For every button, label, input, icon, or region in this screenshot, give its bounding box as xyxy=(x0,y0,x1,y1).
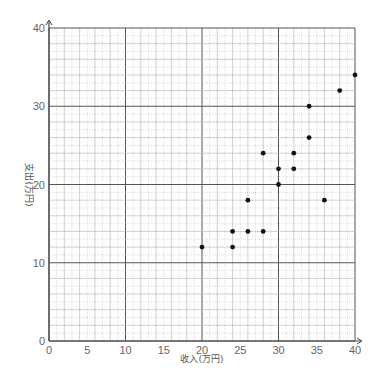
x-tick-label: 0 xyxy=(46,344,52,356)
data-point xyxy=(307,104,312,109)
y-axis-label: 支出(万円) xyxy=(24,163,35,206)
data-point xyxy=(337,88,342,93)
x-tick-label: 15 xyxy=(158,344,170,356)
x-tick-label: 5 xyxy=(84,344,90,356)
x-tick-label: 40 xyxy=(349,344,361,356)
x-tick-label: 10 xyxy=(119,344,131,356)
data-point xyxy=(276,182,281,187)
data-point xyxy=(322,198,327,203)
data-point xyxy=(307,135,312,140)
axes xyxy=(46,20,362,344)
data-point xyxy=(291,166,296,171)
data-point xyxy=(353,73,358,78)
data-point xyxy=(200,245,205,250)
data-point xyxy=(246,198,251,203)
scatter-chart: 0510152025303540 010203040 收入(万円) 支出(万円) xyxy=(0,0,383,389)
y-tick-label: 40 xyxy=(33,22,45,34)
data-point xyxy=(261,151,266,156)
y-tick-label: 10 xyxy=(33,257,45,269)
y-tick-label: 0 xyxy=(39,335,45,347)
y-tick-label: 30 xyxy=(33,100,45,112)
data-point xyxy=(276,166,281,171)
data-point xyxy=(230,245,235,250)
x-tick-label: 30 xyxy=(272,344,284,356)
data-point xyxy=(246,229,251,234)
data-point xyxy=(230,229,235,234)
data-point xyxy=(261,229,266,234)
x-axis-label: 收入(万円) xyxy=(180,353,223,364)
data-point xyxy=(291,151,296,156)
grid xyxy=(49,28,355,341)
x-tick-label: 25 xyxy=(234,344,246,356)
x-tick-label: 35 xyxy=(311,344,323,356)
